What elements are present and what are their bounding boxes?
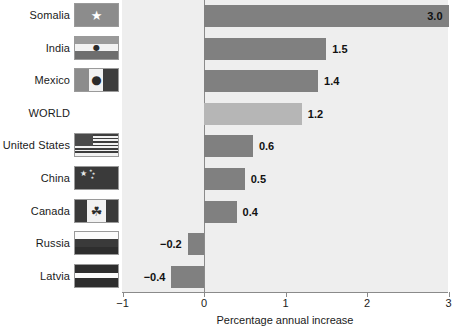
chart-row: Somalia★ [0,4,122,26]
chart-row: Russia [0,232,122,254]
category-label: WORLD [29,107,74,119]
bar [204,135,253,157]
flag-somalia-icon: ★ [74,3,119,27]
bar [204,168,245,190]
x-axis-tick-label: 3 [445,297,451,309]
x-axis-tick-label: 0 [201,297,207,309]
bar-value-label: −0.4 [135,266,165,288]
bar-value-label: 3.0 [415,5,443,27]
x-axis-title: Percentage annual increase [122,314,448,326]
chart-row: Mexico● [0,69,122,91]
bar-value-label: 0.5 [251,168,266,190]
flag-russia-icon [74,231,119,255]
category-label: Canada [31,205,74,217]
flag-placeholder [74,101,122,125]
bar [204,201,237,223]
bar-value-label: 1.5 [332,38,347,60]
flag-latvia-icon [74,264,119,288]
category-label: Latvia [40,270,74,282]
flag-china-icon: ★★★★ [74,166,119,190]
flag-mexico-icon: ● [74,68,119,92]
bar-value-label: 0.6 [259,135,274,157]
chart-row: Canada☘ [0,200,122,222]
bar [171,266,204,288]
category-label: Mexico [35,74,74,86]
chart-row: India● [0,37,122,59]
chart-row: Latvia [0,265,122,287]
x-axis-tick-label: 2 [364,297,370,309]
category-label: Russia [36,237,74,249]
x-axis-tick-label: 1 [282,297,288,309]
flag-united-states-icon [74,133,119,157]
bar [204,103,302,125]
bar [204,38,326,60]
flag-india-icon: ● [74,36,119,60]
chart-row: WORLD [0,102,122,124]
category-label: Somalia [30,9,74,21]
chart-row: United States [0,134,122,156]
bar-value-label: 0.4 [243,201,258,223]
bar-value-label: 1.2 [308,103,323,125]
chart-row: China★★★★ [0,167,122,189]
category-label: China [41,172,74,184]
bar [188,233,204,255]
category-label: United States [3,139,74,151]
bar [204,5,449,27]
category-label: India [46,42,74,54]
bar-value-label: −0.2 [152,233,182,255]
flag-canada-icon: ☘ [74,199,119,223]
bar-value-label: 1.4 [324,70,339,92]
bar [204,70,318,92]
x-axis-tick-label: −1 [116,297,129,309]
